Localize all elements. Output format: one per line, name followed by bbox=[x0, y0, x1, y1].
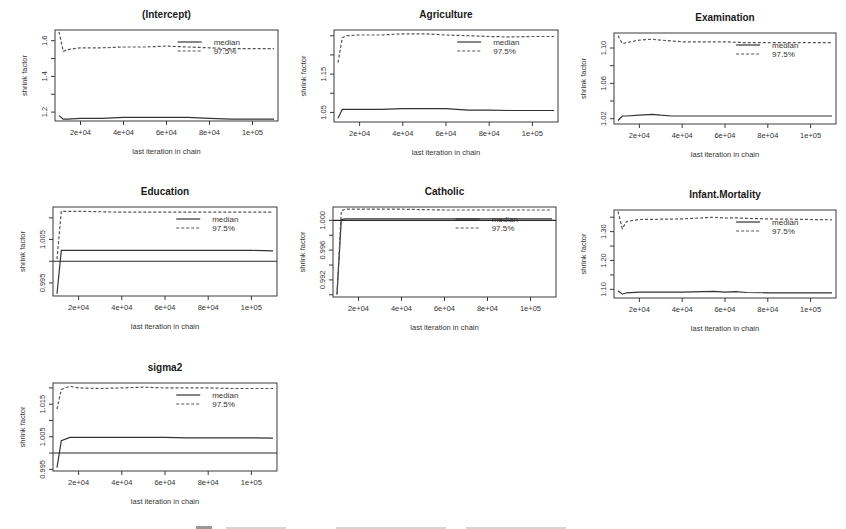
x-tick-label: 4e+04 bbox=[113, 128, 134, 137]
x-tick-label: 4e+04 bbox=[111, 303, 132, 312]
series-97-5-pct-line bbox=[57, 211, 273, 259]
x-tick-label: 8e+04 bbox=[479, 129, 500, 138]
series-median-line bbox=[59, 116, 274, 120]
x-tick-label: 6e+04 bbox=[154, 478, 175, 487]
x-axis-label: last iteration in chain bbox=[691, 324, 759, 333]
panel-title: Infant.Mortality bbox=[689, 189, 761, 200]
y-tick-label: 1.015 bbox=[38, 395, 47, 414]
legend-label: median bbox=[493, 38, 519, 47]
x-axis-label: last iteration in chain bbox=[131, 497, 199, 506]
x-tick-label: 4e+04 bbox=[672, 305, 693, 314]
x-tick-label: 1e+05 bbox=[242, 128, 263, 137]
series-median-line bbox=[57, 250, 273, 293]
series-median-line bbox=[338, 109, 554, 119]
panel-examination: Examination1.021.061.102e+044e+046e+048e… bbox=[579, 12, 836, 159]
series-median-line bbox=[337, 219, 552, 294]
y-tick-label: 1.10 bbox=[599, 282, 608, 297]
x-tick-label: 1e+05 bbox=[241, 303, 262, 312]
x-tick-label: 2e+04 bbox=[629, 305, 650, 314]
series-97-5-pct-line bbox=[59, 32, 274, 52]
panel-sigma2: sigma20.9951.0051.0152e+044e+046e+048e+0… bbox=[18, 362, 277, 506]
plot-grid: (Intercept)1.21.41.62e+044e+046e+048e+04… bbox=[0, 0, 846, 529]
x-tick-label: 8e+04 bbox=[198, 478, 219, 487]
y-tick-label: 1.06 bbox=[599, 76, 608, 91]
y-tick-label: 1.4 bbox=[40, 71, 49, 81]
panel-title: Agriculture bbox=[419, 9, 473, 20]
y-tick-label: 1.000 bbox=[318, 211, 327, 230]
series-97-5-pct-line bbox=[618, 36, 832, 44]
y-tick-label: 1.005 bbox=[38, 230, 47, 249]
x-tick-label: 1e+05 bbox=[522, 129, 543, 138]
y-tick-label: 1.15 bbox=[319, 67, 328, 82]
y-tick-label: 1.6 bbox=[40, 35, 49, 45]
y-axis-label: shrink factor bbox=[299, 55, 308, 96]
plot-frame bbox=[53, 207, 277, 296]
y-tick-label: 1.05 bbox=[319, 105, 328, 120]
x-tick-label: 8e+04 bbox=[757, 305, 778, 314]
y-tick-label: 1.2 bbox=[40, 107, 49, 117]
x-tick-label: 1e+05 bbox=[520, 304, 541, 313]
y-tick-label: 0.995 bbox=[38, 460, 47, 479]
legend-label: 97.5% bbox=[212, 224, 235, 233]
legend-label: 97.5% bbox=[493, 47, 516, 56]
panel-title: Catholic bbox=[425, 186, 465, 197]
series-97-5-pct-line bbox=[338, 34, 554, 63]
x-axis-label: last iteration in chain bbox=[131, 322, 199, 331]
x-tick-label: 6e+04 bbox=[714, 131, 735, 140]
panel-title: sigma2 bbox=[148, 362, 183, 373]
x-axis-label: last iteration in chain bbox=[691, 150, 759, 159]
y-axis-label: shrink factor bbox=[18, 231, 27, 272]
gelman-diagnostic-figure: (Intercept)1.21.41.62e+044e+046e+048e+04… bbox=[0, 0, 846, 529]
legend: median97.5% bbox=[456, 215, 518, 233]
legend-label: median bbox=[492, 215, 518, 224]
legend-label: 97.5% bbox=[772, 50, 795, 59]
x-tick-label: 4e+04 bbox=[392, 129, 413, 138]
legend: median97.5% bbox=[178, 38, 240, 56]
legend-label: median bbox=[212, 215, 238, 224]
legend-label: 97.5% bbox=[492, 224, 515, 233]
x-tick-label: 1e+05 bbox=[241, 478, 262, 487]
y-axis-label: shrink factor bbox=[579, 233, 588, 274]
plot-frame bbox=[55, 30, 278, 121]
panel-agriculture: Agriculture1.051.152e+044e+046e+048e+041… bbox=[299, 9, 558, 157]
y-tick-label: 0.992 bbox=[318, 271, 327, 290]
x-tick-label: 6e+04 bbox=[435, 129, 456, 138]
x-axis-label: last iteration in chain bbox=[410, 323, 478, 332]
x-tick-label: 4e+04 bbox=[111, 478, 132, 487]
panel-infant-mortality: Infant.Mortality1.101.201.302e+044e+046e… bbox=[579, 189, 836, 333]
legend: median97.5% bbox=[457, 38, 519, 56]
x-tick-label: 2e+04 bbox=[68, 478, 89, 487]
x-tick-label: 8e+04 bbox=[199, 128, 220, 137]
plot-frame bbox=[614, 210, 836, 298]
y-tick-label: 1.005 bbox=[38, 427, 47, 446]
series-median-line bbox=[618, 291, 832, 294]
y-axis-label: shrink factor bbox=[20, 55, 29, 96]
x-tick-label: 6e+04 bbox=[434, 304, 455, 313]
x-tick-label: 2e+04 bbox=[68, 303, 89, 312]
legend-label: 97.5% bbox=[212, 400, 235, 409]
x-tick-label: 6e+04 bbox=[156, 128, 177, 137]
x-axis-label: last iteration in chain bbox=[412, 148, 480, 157]
y-tick-label: 1.30 bbox=[599, 224, 608, 239]
x-tick-label: 2e+04 bbox=[348, 304, 369, 313]
figure-caption-clipped bbox=[196, 525, 576, 529]
y-tick-label: 0.996 bbox=[318, 241, 327, 260]
legend-label: median bbox=[772, 218, 798, 227]
x-tick-label: 2e+04 bbox=[70, 128, 91, 137]
x-tick-label: 6e+04 bbox=[714, 305, 735, 314]
y-axis-label: shrink factor bbox=[579, 58, 588, 99]
x-tick-label: 1e+05 bbox=[800, 305, 821, 314]
legend-label: median bbox=[212, 391, 238, 400]
x-tick-label: 4e+04 bbox=[391, 304, 412, 313]
x-tick-label: 1e+05 bbox=[800, 131, 821, 140]
x-tick-label: 6e+04 bbox=[154, 303, 175, 312]
legend: median97.5% bbox=[736, 218, 798, 236]
legend-label: 97.5% bbox=[772, 227, 795, 236]
x-tick-label: 2e+04 bbox=[629, 131, 650, 140]
y-axis-label: shrink factor bbox=[298, 231, 307, 272]
x-tick-label: 2e+04 bbox=[349, 129, 370, 138]
plot-frame bbox=[53, 383, 277, 471]
legend: median97.5% bbox=[176, 215, 238, 233]
legend-label: median bbox=[214, 38, 240, 47]
legend-label: 97.5% bbox=[214, 47, 237, 56]
